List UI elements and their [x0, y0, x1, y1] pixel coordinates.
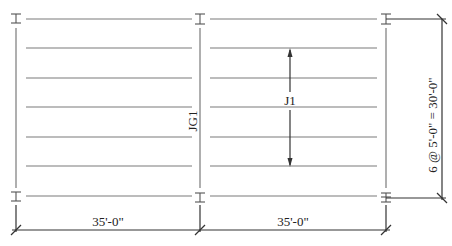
column-icon — [195, 14, 205, 24]
bay-width-right-label: 35'-0" — [277, 214, 308, 229]
column-icon — [11, 14, 21, 23]
arrow-up-icon — [288, 48, 293, 57]
framing-plan-diagram: 35'-0" 35'-0" J1 JG1 6 @ 5'-0" = 30'-0" — [0, 0, 452, 246]
dimension-bottom — [11, 225, 391, 235]
column-icon — [195, 193, 205, 202]
column-symbols — [11, 14, 391, 202]
column-icon — [11, 192, 21, 201]
joists-left-bay — [26, 19, 192, 196]
joist-spacing-label: 6 @ 5'-0" = 30'-0" — [425, 77, 440, 172]
bay-width-left-label: 35'-0" — [92, 214, 123, 229]
girders — [16, 28, 386, 232]
girder-label: JG1 — [185, 111, 200, 132]
joist-label: J1 — [284, 93, 296, 108]
